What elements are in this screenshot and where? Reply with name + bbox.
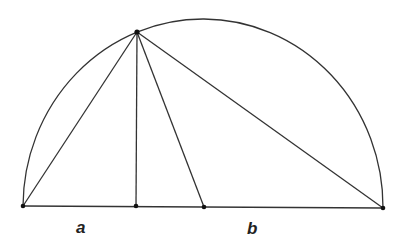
altitude-line — [136, 32, 137, 206]
point-center — [202, 205, 207, 210]
semicircle-diagram: a b — [0, 0, 409, 247]
semicircle-arc — [23, 19, 383, 208]
point-left-end — [21, 204, 26, 209]
radius-line — [137, 32, 204, 207]
label-a: a — [76, 218, 85, 237]
point-right-end — [381, 206, 386, 211]
diagram-canvas: a b — [0, 0, 409, 247]
point-apex — [134, 29, 139, 34]
chord-left — [23, 32, 137, 206]
chord-right — [137, 32, 383, 208]
label-b: b — [247, 219, 257, 238]
point-foot — [134, 204, 139, 209]
